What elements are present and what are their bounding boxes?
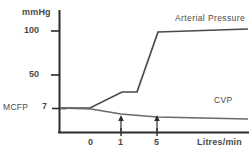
cvp-line xyxy=(60,108,248,119)
arterial-pressure-series-label: Arterial Pressure xyxy=(175,14,245,23)
cvp-series-label: CVP xyxy=(214,96,233,105)
y-axis-unit-label: mmHg xyxy=(22,8,51,17)
x-tick-label-0: 0 xyxy=(88,138,93,147)
y-tick-label-100: 100 xyxy=(24,26,39,35)
x-axis-title: Litres/min xyxy=(197,138,242,147)
y-tick-label-7: 7 xyxy=(42,102,47,111)
mcfp-label: MCFP xyxy=(3,103,28,112)
annotation-arrow-1 xyxy=(118,115,124,131)
x-tick-label-5: 5 xyxy=(154,138,159,147)
x-tick-label-1: 1 xyxy=(118,138,123,147)
y-tick-label-50: 50 xyxy=(29,70,39,79)
venous-return-cardiac-output-chart: mmHg 100 50 MCFP 7 0 1 5 Litres/min Arte… xyxy=(0,0,252,155)
